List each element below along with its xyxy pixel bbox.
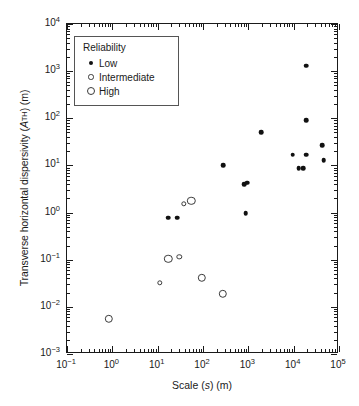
y-tick-minor [67,274,70,275]
x-tick-minor [337,349,338,352]
y-tick-minor-right [334,223,337,224]
x-tick-minor-top [99,24,100,27]
x-tick-minor-top [284,24,285,27]
x-tick-minor [179,349,180,352]
x-tick-minor-top [235,24,236,27]
x-tick-minor-top [189,24,190,27]
y-tick-minor-right [334,34,337,35]
y-tick-minor [67,170,70,171]
x-tick-minor-top [179,24,180,27]
x-tick-minor-top [144,24,145,27]
x-tick-major-top [294,24,295,30]
data-point-high [187,196,195,204]
x-tick-minor [287,349,288,352]
y-tick-minor-right [334,217,337,218]
y-tick-minor-right [334,73,337,74]
x-tick-minor-top [94,24,95,27]
x-tick-minor-top [151,24,152,27]
y-axis-label-post: ) (m) [18,90,30,112]
y-tick-minor [67,78,70,79]
x-tick-minor-top [126,24,127,27]
y-tick-minor [67,321,70,322]
data-point-low [304,118,309,123]
y-tick-major-right [331,307,337,308]
legend-marker-low-icon [83,61,99,66]
x-tick-minor [280,349,281,352]
y-tick-minor [67,31,70,32]
x-tick-label: 101 [149,357,164,370]
x-tick-minor-top [287,24,288,27]
x-tick-minor-top [321,24,322,27]
y-tick-minor [67,227,70,228]
x-tick-minor-top [325,24,326,27]
y-tick-minor [67,176,70,177]
y-tick-major [67,118,73,119]
data-point-low [221,163,226,168]
legend-rows: LowIntermediateHigh [83,56,178,98]
x-tick-major [112,346,113,352]
x-tick-minor [325,349,326,352]
x-tick-minor-top [201,24,202,27]
x-tick-minor [262,349,263,352]
x-tick-minor [89,349,90,352]
x-tick-minor [81,349,82,352]
x-tick-minor-top [153,24,154,27]
x-tick-minor [329,349,330,352]
data-point-intermediate [181,201,186,206]
y-tick-major-right [331,118,337,119]
y-tick-minor [67,143,70,144]
legend-label-low: Low [99,58,117,69]
x-tick-minor [126,349,127,352]
y-tick-minor [67,264,70,265]
x-tick-minor-top [307,24,308,27]
x-tick-minor-top [244,24,245,27]
legend-dot-high [87,87,95,95]
y-tick-minor-right [334,237,337,238]
y-tick-minor [67,231,70,232]
data-point-high [164,255,172,263]
x-tick-minor-top [89,24,90,27]
y-tick-minor [67,76,70,77]
y-tick-minor-right [334,76,337,77]
x-tick-minor [140,349,141,352]
x-tick-minor [225,349,226,352]
x-tick-label: 105 [330,357,345,370]
data-point-low [321,158,326,163]
x-tick-minor [196,349,197,352]
x-tick-major [248,346,249,352]
data-point-intermediate [157,280,162,285]
y-tick-minor-right [334,96,337,97]
y-tick-minor-right [334,309,337,310]
legend-dot-intermediate [88,74,93,79]
y-tick-minor [67,38,70,39]
y-tick-minor-right [334,170,337,171]
y-tick-major-right [331,260,337,261]
x-tick-minor [335,349,336,352]
x-tick-minor-top [289,24,290,27]
y-tick-minor-right [334,38,337,39]
y-tick-minor [67,34,70,35]
y-tick-minor [67,126,70,127]
y-tick-minor [67,90,70,91]
y-tick-minor-right [334,231,337,232]
y-tick-major [67,165,73,166]
legend-dot-low [89,61,94,66]
x-tick-minor [193,349,194,352]
x-tick-minor [185,349,186,352]
x-tick-minor [153,349,154,352]
y-tick-major-right [331,213,337,214]
y-tick-minor [67,340,70,341]
y-axis-label: Transverse horizontal dispersivity (ATH)… [16,23,32,353]
y-tick-minor-right [334,126,337,127]
x-tick-minor [171,349,172,352]
x-tick-major-top [112,24,113,30]
y-tick-minor [67,43,70,44]
y-tick-minor [67,29,70,30]
y-tick-major [67,71,73,72]
x-tick-minor [332,349,333,352]
y-tick-minor-right [334,129,337,130]
x-tick-minor-top [329,24,330,27]
x-tick-minor [148,349,149,352]
data-point-low [304,63,309,68]
x-tick-minor-top [230,24,231,27]
